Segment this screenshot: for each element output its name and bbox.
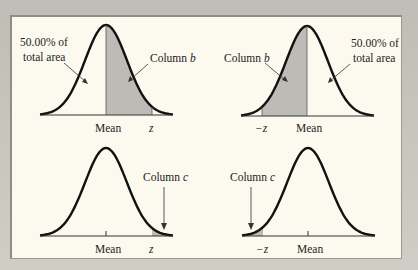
normal-curve: [242, 148, 375, 236]
figure-frame: 50.00% of total area Column b Mean z Col…: [0, 0, 418, 270]
label-column-b: Column b: [224, 52, 270, 64]
label-z: z: [148, 243, 154, 255]
label-total-area-line2: total area: [23, 51, 65, 63]
normal-curve-figure: 50.00% of total area Column b Mean z Col…: [0, 0, 418, 270]
label-total-area-line1: 50.00% of: [20, 36, 68, 48]
panel-bottom-left: Column c Mean z: [40, 148, 188, 255]
label-neg-z: −z: [255, 122, 268, 134]
shaded-area-column-b: [262, 26, 307, 116]
label-total-area-line2: total area: [353, 52, 395, 64]
label-mean: Mean: [297, 243, 323, 255]
arrow-head: [328, 77, 333, 83]
label-column-c: Column c: [230, 171, 275, 183]
arrow-head: [248, 223, 254, 230]
shaded-area-column-b: [106, 25, 152, 115]
arrow-head: [161, 223, 167, 230]
label-column-c: Column c: [143, 171, 188, 183]
panel-top-right: Column b 50.00% of total area −z Mean: [224, 26, 399, 134]
label-mean: Mean: [95, 122, 121, 134]
panel-bottom-right: Column c −z Mean: [230, 148, 375, 255]
label-z: z: [148, 122, 154, 134]
label-column-b: Column b: [150, 52, 196, 64]
normal-curve: [40, 148, 173, 236]
label-mean: Mean: [95, 243, 121, 255]
panel-top-left: 50.00% of total area Column b Mean z: [20, 25, 196, 134]
label-mean: Mean: [296, 122, 322, 134]
label-total-area-line1: 50.00% of: [351, 37, 399, 49]
label-neg-z: −z: [256, 243, 269, 255]
